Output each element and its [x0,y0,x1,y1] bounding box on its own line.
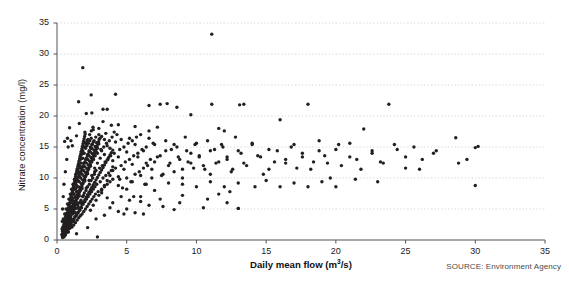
nitrate-flow-scatter-figure: Nitrate concentration (mg/l) 05101520253… [0,0,569,284]
x-tick-label: 15 [255,246,277,256]
y-tick-label: 25 [31,79,49,89]
y-tick-label: 35 [31,17,49,27]
x-tick-label: 30 [464,246,486,256]
x-tick-label: 25 [395,246,417,256]
x-tick-label: 35 [534,246,556,256]
y-tick-label: 30 [31,48,49,58]
x-tick-label: 5 [116,246,138,256]
x-tick-label: 20 [325,246,347,256]
data-points [60,32,480,239]
x-axis-label-tail: /s) [341,259,352,270]
source-attribution: SOURCE: Environment Agency [446,262,561,271]
y-tick-label: 20 [31,110,49,120]
x-tick-label: 10 [185,246,207,256]
plot-canvas [0,0,569,284]
y-tick-label: 5 [31,203,49,213]
y-tick-label: 0 [31,234,49,244]
y-tick-label: 15 [31,141,49,151]
axis-lines [57,23,545,240]
x-tick-label: 0 [46,246,68,256]
x-axis-label-base: Daily mean flow (m [250,259,337,270]
y-tick-label: 10 [31,172,49,182]
